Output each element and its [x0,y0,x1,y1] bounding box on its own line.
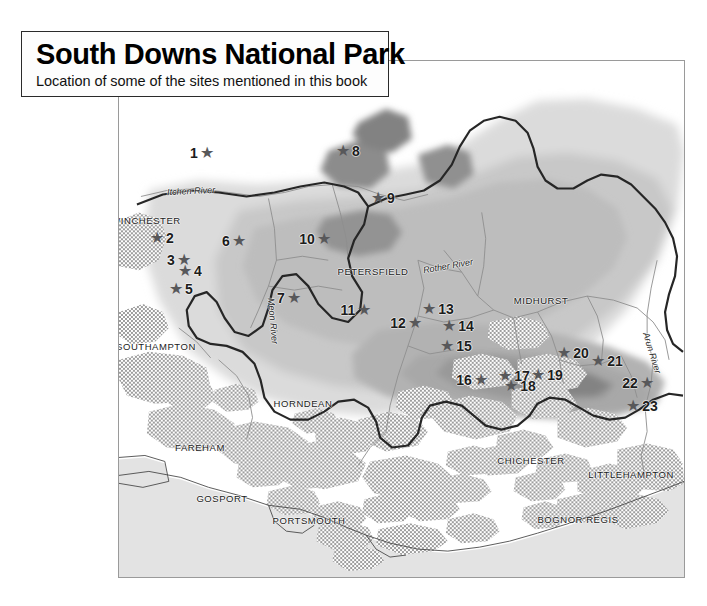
star-icon: ★ [317,232,331,246]
site-number: 3 [167,253,175,267]
site-marker[interactable]: 23★ [626,399,658,413]
star-icon: ★ [232,234,246,248]
site-marker[interactable]: 19★ [531,368,563,382]
site-number: 4 [194,264,202,278]
site-number: 8 [352,144,360,158]
site-marker[interactable]: 6★ [222,234,246,248]
star-icon: ★ [474,373,488,387]
site-marker[interactable]: 14★ [442,319,474,333]
star-icon: ★ [442,319,456,333]
star-icon: ★ [440,339,454,353]
site-marker[interactable]: 22★ [622,376,654,390]
place-label: MIDHURST [514,295,569,306]
star-icon: ★ [169,282,183,296]
site-marker[interactable]: 15★ [440,339,472,353]
site-number: 13 [438,302,454,316]
place-label: GOSPORT [196,493,247,504]
site-marker[interactable]: 5★ [169,282,193,296]
map-frame: Itchen RiverMeon RiverRother RiverArun R… [118,60,685,578]
site-number: 15 [456,339,472,353]
site-marker[interactable]: 16★ [456,373,488,387]
site-number: 10 [299,232,315,246]
site-marker[interactable]: 2★ [150,231,174,245]
site-number: 23 [642,399,658,413]
star-icon: ★ [408,316,422,330]
site-number: 11 [341,303,356,317]
site-marker[interactable]: 13★ [422,302,454,316]
place-label: PORTSMOUTH [273,515,346,526]
star-icon: ★ [626,399,640,413]
site-number: 16 [456,373,472,387]
site-number: 12 [390,316,406,330]
site-number: 21 [607,354,623,368]
site-number: 2 [166,231,174,245]
site-number: 7 [277,291,285,305]
site-marker[interactable]: 1★ [190,146,214,160]
site-number: 20 [573,346,589,360]
place-label: WINCHESTER [118,215,181,226]
star-icon: ★ [504,379,518,393]
site-number: 9 [387,191,395,205]
page-subtitle: Location of some of the sites mentioned … [36,71,388,91]
site-marker[interactable]: 9★ [371,191,395,205]
site-marker[interactable]: 21★ [591,354,623,368]
site-number: 6 [222,234,230,248]
site-marker[interactable]: 7★ [277,291,301,305]
site-marker[interactable]: 10★ [299,232,331,246]
place-label: PETERSFIELD [338,266,409,277]
place-label: SOUTHAMPTON [118,341,196,352]
site-marker[interactable]: 12★ [390,316,422,330]
site-marker[interactable]: 11★ [341,303,372,317]
site-number: 22 [622,376,638,390]
star-icon: ★ [200,146,214,160]
star-icon: ★ [557,346,571,360]
star-icon: ★ [357,303,371,317]
place-label: HORNDEAN [274,398,333,409]
place-label: BOGNOR REGIS [537,514,618,525]
star-icon: ★ [531,368,545,382]
site-number: 5 [185,282,193,296]
site-marker[interactable]: 8★ [336,144,360,158]
site-number: 19 [547,368,563,382]
place-label: LITTLEHAMPTON [588,469,674,480]
star-icon: ★ [640,376,654,390]
map-title-card: South Downs National Park Location of so… [21,31,389,97]
star-icon: ★ [591,354,605,368]
site-marker[interactable]: 20★ [557,346,589,360]
page-title: South Downs National Park [36,37,388,71]
site-marker[interactable]: 4★ [178,264,202,278]
site-number: 14 [458,319,474,333]
star-icon: ★ [336,144,350,158]
site-number: 1 [190,146,198,160]
star-icon: ★ [287,291,301,305]
star-icon: ★ [178,264,192,278]
place-label: FAREHAM [175,442,225,453]
star-icon: ★ [422,302,436,316]
place-label: CHICHESTER [497,455,564,466]
star-icon: ★ [150,231,164,245]
star-icon: ★ [371,191,385,205]
